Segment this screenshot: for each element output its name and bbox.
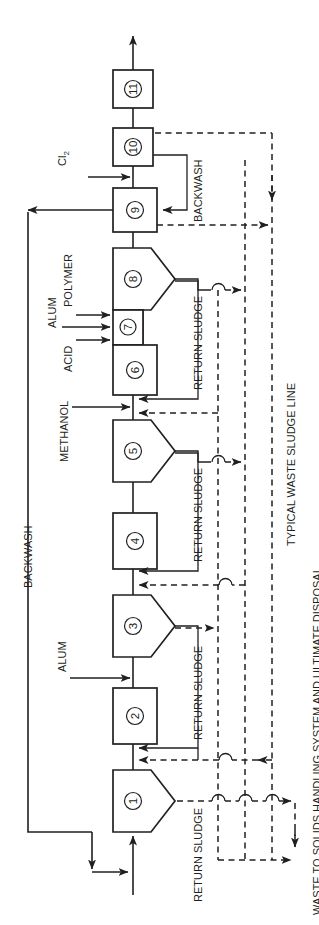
backwash-main-label: BACKWASH [22, 525, 34, 588]
polymer-feed-label: POLYMER [62, 254, 74, 307]
chlorine-subscript: 2 [62, 151, 71, 155]
chlorine-feed-label: Cl2 [56, 151, 71, 166]
waste-to-solids-label: WASTE TO SOLIDS HANDLING SYSTEM AND ULTI… [311, 567, 319, 915]
alum-feed-low-label: ALUM [56, 641, 68, 672]
chlorine-feed-label-text: Cl [56, 156, 68, 166]
return-sludge-label: RETURN SLUDGE [192, 808, 204, 902]
return-sludge-label: RETURN SLUDGE [192, 468, 204, 562]
label-layer: Cl2 BACKWASH POLYMER ALUM ACID METHANOL … [0, 0, 319, 925]
backwash-filter-label: BACKWASH [192, 159, 204, 222]
methanol-feed-label: METHANOL [58, 401, 70, 462]
typical-waste-sludge-line-label: TYPICAL WASTE SLUDGE LINE [285, 383, 297, 546]
process-flow-diagram: 11 10 9 8 7 6 [0, 0, 319, 925]
return-sludge-label: RETURN SLUDGE [192, 646, 204, 740]
alum-feed-top-label: ALUM [46, 297, 58, 328]
return-sludge-label: RETURN SLUDGE [192, 296, 204, 390]
acid-feed-label: ACID [62, 346, 74, 372]
